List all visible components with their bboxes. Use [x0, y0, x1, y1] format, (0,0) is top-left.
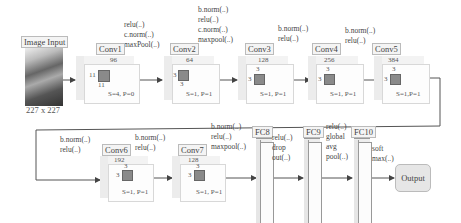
conv7-kernel-w: 3 — [196, 162, 200, 170]
conv1-params: S=4, P=0 — [108, 90, 134, 98]
fc9-title: FC9 — [303, 126, 324, 138]
conv3-kernel-w: 3 — [256, 65, 260, 73]
input-xray-image — [25, 48, 63, 106]
conv5-title: Conv5 — [372, 43, 401, 55]
conv6-title: Conv6 — [102, 144, 131, 156]
conv5-kernel — [390, 74, 401, 85]
conv3-params: S=1, P=1 — [260, 90, 286, 98]
conv5-filters: 384 — [388, 56, 399, 64]
conv2-title: Conv2 — [170, 43, 199, 55]
conv1-title: Conv1 — [96, 43, 125, 55]
input-size-label: 227 x 227 — [26, 106, 60, 115]
fc9-ops: relu(..) global avg pool(..) — [326, 122, 348, 162]
conv5-kernel-w: 3 — [392, 65, 396, 73]
conv4-kernel — [324, 74, 335, 85]
conv3-kernel — [254, 74, 265, 85]
conv5-pre-ops: b.norm(..) relu(..) — [345, 26, 375, 46]
conv1-kernel-h: 11 — [89, 71, 96, 79]
conv5-params: S=1,P=1 — [396, 90, 420, 98]
conv4-pre-ops: b.norm(..) relu(..) — [278, 24, 308, 44]
conv6-pre-ops: b.norm(..) relu(..) — [60, 135, 90, 155]
conv2-ops: b.norm(..) relu(..) c.norm(..) maxpool(.… — [198, 5, 233, 45]
conv2-kernel-h: 3 — [173, 71, 177, 79]
conv4-kernel-h: 3 — [318, 75, 322, 83]
conv7-ops: b.norm(..) relu(..) maxpool(..) — [211, 122, 246, 152]
conv6-kernel — [122, 170, 133, 181]
conv4-filters: 256 — [324, 56, 335, 64]
fc8-ops: relu(..) drop out(..) — [272, 133, 292, 163]
conv4-kernel-w: 3 — [326, 65, 330, 73]
conv7-params: S=1, P=1 — [196, 188, 222, 196]
conv4-params: S=1, P=1 — [330, 90, 356, 98]
conv2-kernel-w: 3 — [180, 80, 184, 88]
conv2-filters: 64 — [186, 56, 193, 64]
conv6-kernel-h: 3 — [116, 171, 120, 179]
conv1-kernel-w: 11 — [98, 81, 105, 89]
conv1-ops: relu(..) c.norm(..) maxPool(..) — [124, 20, 159, 50]
conv3-filters: 128 — [258, 56, 269, 64]
output-box: Output — [395, 164, 431, 192]
conv6-kernel-w: 3 — [124, 162, 128, 170]
fc10-ops: soft max(..) — [372, 144, 394, 164]
fc10-title: FC10 — [351, 126, 376, 138]
conv3-kernel-h: 3 — [248, 75, 252, 83]
conv7-kernel — [194, 170, 205, 181]
conv1-filters: 96 — [110, 56, 117, 64]
conv6-filters: 192 — [114, 156, 125, 164]
conv7-kernel-h: 3 — [188, 171, 192, 179]
image-input-title: Image Input — [21, 36, 68, 48]
conv3-title: Conv3 — [245, 43, 274, 55]
conv7-pre-ops: b.norm(..) relu(..) — [135, 133, 165, 153]
conv7-title: Conv7 — [178, 144, 207, 156]
conv2-params: S=1, P=1 — [186, 90, 212, 98]
conv5-kernel-h: 3 — [384, 75, 388, 83]
conv6-params: S=1, P=1 — [122, 188, 148, 196]
fc8-title: FC8 — [252, 126, 273, 138]
conv4-title: Conv4 — [312, 43, 341, 55]
